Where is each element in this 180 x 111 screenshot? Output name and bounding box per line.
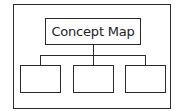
- connector-left: [40, 55, 41, 65]
- connector-right: [145, 55, 146, 65]
- title-label: Concept Map: [51, 24, 134, 39]
- concept-map-title-node: Concept Map: [45, 18, 141, 45]
- connector-trunk: [93, 45, 94, 55]
- child-node-2: [73, 65, 114, 93]
- child-node-1: [20, 65, 61, 93]
- child-node-3: [125, 65, 166, 93]
- connector-middle: [93, 55, 94, 65]
